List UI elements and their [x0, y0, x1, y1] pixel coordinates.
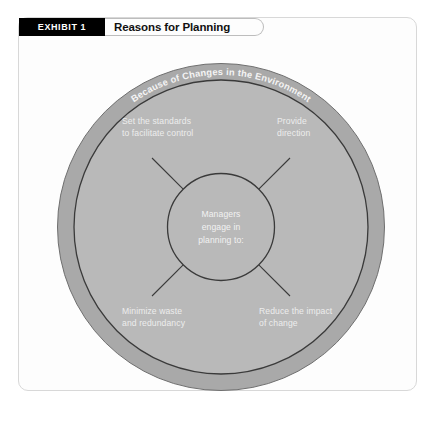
center-label-group: Managers engage in planning to:	[198, 209, 244, 245]
planning-reasons-diagram: Because of Changes in the Environment Se…	[19, 18, 418, 392]
quadrant-bottom-right-line2: of change	[259, 318, 298, 328]
quadrant-bottom-left-line2: and redundancy	[122, 318, 186, 328]
quadrant-top-right-line2: direction	[277, 128, 311, 138]
quadrant-bottom-left-line1: Minimize waste	[122, 306, 182, 316]
quadrant-top-left-line1: Set the standards	[122, 116, 191, 126]
diagram-svg: Because of Changes in the Environment Se…	[19, 18, 418, 392]
quadrant-top-left-line2: to facilitate control	[122, 128, 193, 138]
quadrant-top-right-line1: Provide	[277, 116, 307, 126]
exhibit-card: EXHIBIT 1 Reasons for Planning	[18, 17, 417, 391]
center-label-line1: Managers	[201, 209, 240, 219]
center-label-line2: engage in	[202, 222, 241, 232]
quadrant-bottom-right-line1: Reduce the impact	[259, 306, 333, 316]
center-label-line3: planning to:	[198, 235, 244, 245]
